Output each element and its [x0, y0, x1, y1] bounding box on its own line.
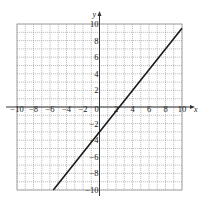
x-tick-label: −10: [10, 104, 23, 114]
y-axis-label: y: [92, 10, 97, 19]
y-tick-label: 2: [94, 85, 98, 95]
y-tick-label: 4: [94, 69, 99, 79]
x-tick-label: −4: [62, 104, 72, 114]
x-tick-label: 0: [94, 104, 98, 114]
y-tick-label: 6: [94, 52, 98, 62]
x-tick-label: −8: [29, 104, 38, 114]
coordinate-plane: xy −10−8−6−4−20246810−10−8−6−4−2246810: [0, 0, 198, 201]
x-tick-label: 4: [130, 104, 135, 114]
x-tick-label: 6: [147, 104, 151, 114]
y-tick-label: −2: [89, 119, 98, 129]
x-axis-label: x: [193, 105, 198, 114]
x-tick-label: 10: [178, 104, 187, 114]
y-tick-label: 8: [94, 36, 98, 46]
x-tick-label: −6: [45, 104, 54, 114]
y-tick-label: −8: [89, 168, 98, 178]
x-tick-label: 8: [163, 104, 167, 114]
y-tick-label: −10: [85, 185, 98, 195]
axes: xy: [6, 10, 198, 196]
x-tick-label: −2: [78, 104, 87, 114]
y-tick-label: −6: [89, 152, 98, 162]
y-axis-arrow-icon: [98, 11, 102, 16]
y-tick-label: 10: [90, 19, 99, 29]
